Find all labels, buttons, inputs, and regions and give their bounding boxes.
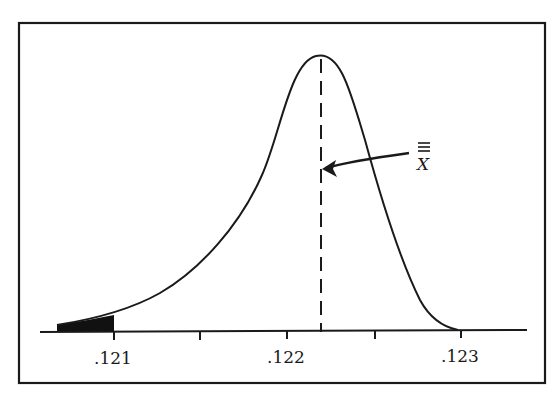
grand-mean-symbol: X: [415, 154, 430, 174]
grand-mean-annotation: X: [322, 143, 430, 177]
distribution-figure: .121 .122 .123 X: [0, 0, 560, 393]
distribution-curve: [57, 55, 458, 330]
chart-svg: .121 .122 .123 X: [0, 0, 560, 393]
tick-label-123: .123: [441, 346, 479, 366]
tick-label-122: .122: [267, 347, 305, 367]
arrowhead-icon: [322, 160, 337, 177]
annotation-arrow: [326, 153, 409, 168]
tick-label-121: .121: [94, 348, 132, 368]
